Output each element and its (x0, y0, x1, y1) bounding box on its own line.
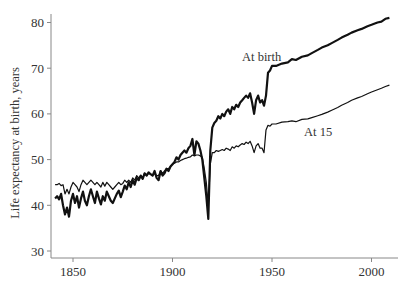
chart-canvas: 304050607080 1850190019502000 Life expec… (0, 0, 408, 291)
y-tick-label: 70 (31, 61, 44, 76)
annotation-at-birth: At birth (242, 50, 282, 64)
axes: 304050607080 1850190019502000 (31, 14, 398, 279)
y-axis-label: Life expectancy at birth, years (8, 67, 22, 219)
y-tick-label: 50 (31, 152, 44, 167)
annotation-at-15: At 15 (304, 125, 332, 139)
x-tick-label: 1850 (60, 264, 86, 279)
y-tick-label: 60 (31, 106, 44, 121)
x-ticks: 1850190019502000 (60, 258, 385, 279)
line-at-birth (55, 18, 389, 219)
x-tick-label: 2000 (359, 264, 385, 279)
y-ticks: 304050607080 (31, 15, 51, 259)
life-expectancy-chart: 304050607080 1850190019502000 Life expec… (0, 0, 408, 291)
line-at-15 (55, 85, 389, 205)
x-tick-label: 1950 (259, 264, 285, 279)
series-lines (55, 18, 389, 219)
y-tick-label: 40 (31, 198, 44, 213)
y-tick-label: 30 (31, 244, 44, 259)
x-tick-label: 1900 (160, 264, 186, 279)
y-tick-label: 80 (31, 15, 44, 30)
